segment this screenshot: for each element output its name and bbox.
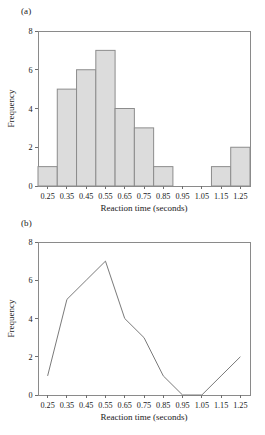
panel-a-histogram: (a) 024680.250.350.450.550.650.750.850.9…	[0, 0, 265, 220]
x-axis-title: Reaction time (seconds)	[101, 412, 188, 422]
x-axis-tick-label: 0.85	[156, 192, 170, 201]
x-axis-tick-label: 1.15	[214, 192, 228, 201]
y-axis-tick-label: 2	[28, 143, 32, 152]
x-axis-tick-label: 0.75	[137, 401, 151, 410]
frequency-polygon-line	[48, 261, 241, 395]
x-axis-tick-label: 0.55	[98, 192, 112, 201]
x-axis-tick-label: 0.65	[118, 192, 132, 201]
x-axis-tick-label: 1.05	[195, 401, 209, 410]
histogram-bar	[134, 128, 153, 186]
x-axis-tick-label: 1.15	[214, 401, 228, 410]
histogram-bar	[231, 147, 250, 186]
histogram-bar	[96, 50, 115, 186]
line-plot-area: 024680.250.350.450.550.650.750.850.951.0…	[0, 205, 265, 435]
x-axis-tick-label: 0.25	[40, 192, 54, 201]
x-axis-tick-label: 1.05	[195, 192, 209, 201]
histogram-bar	[115, 109, 134, 187]
y-axis-tick-label: 0	[28, 391, 32, 400]
x-axis-tick-label: 0.55	[98, 401, 112, 410]
y-axis-tick-label: 6	[28, 276, 32, 285]
y-axis-tick-label: 4	[28, 315, 32, 324]
panel-b-frequency-polygon: (b) 024680.250.350.450.550.650.750.850.9…	[0, 205, 265, 435]
x-axis-tick-label: 1.25	[233, 401, 247, 410]
x-axis-tick-label: 0.95	[175, 192, 189, 201]
x-axis-tick-label: 0.95	[175, 401, 189, 410]
y-axis-tick-label: 4	[28, 105, 32, 114]
x-axis-tick-label: 0.25	[40, 401, 54, 410]
x-axis-tick-label: 1.25	[233, 192, 247, 201]
x-axis-tick-label: 0.45	[79, 401, 93, 410]
histogram-bar	[211, 167, 230, 186]
histogram-bar	[38, 167, 57, 186]
y-axis-tick-label: 8	[28, 27, 32, 36]
plot-frame	[38, 242, 250, 395]
x-axis-tick-label: 0.35	[60, 401, 74, 410]
histogram-bar	[154, 167, 173, 186]
y-axis-title: Frequency	[6, 299, 16, 337]
x-axis-tick-label: 0.85	[156, 401, 170, 410]
x-axis-tick-label: 0.65	[118, 401, 132, 410]
x-axis-tick-label: 0.35	[60, 192, 74, 201]
y-axis-tick-label: 0	[28, 182, 32, 191]
histogram-plot-area: 024680.250.350.450.550.650.750.850.951.0…	[0, 0, 265, 220]
y-axis-title: Frequency	[6, 89, 16, 127]
y-axis-tick-label: 2	[28, 353, 32, 362]
histogram-bar	[57, 89, 76, 186]
histogram-bar	[77, 70, 96, 186]
y-axis-tick-label: 6	[28, 66, 32, 75]
x-axis-tick-label: 0.45	[79, 192, 93, 201]
x-axis-tick-label: 0.75	[137, 192, 151, 201]
y-axis-tick-label: 8	[28, 238, 32, 247]
